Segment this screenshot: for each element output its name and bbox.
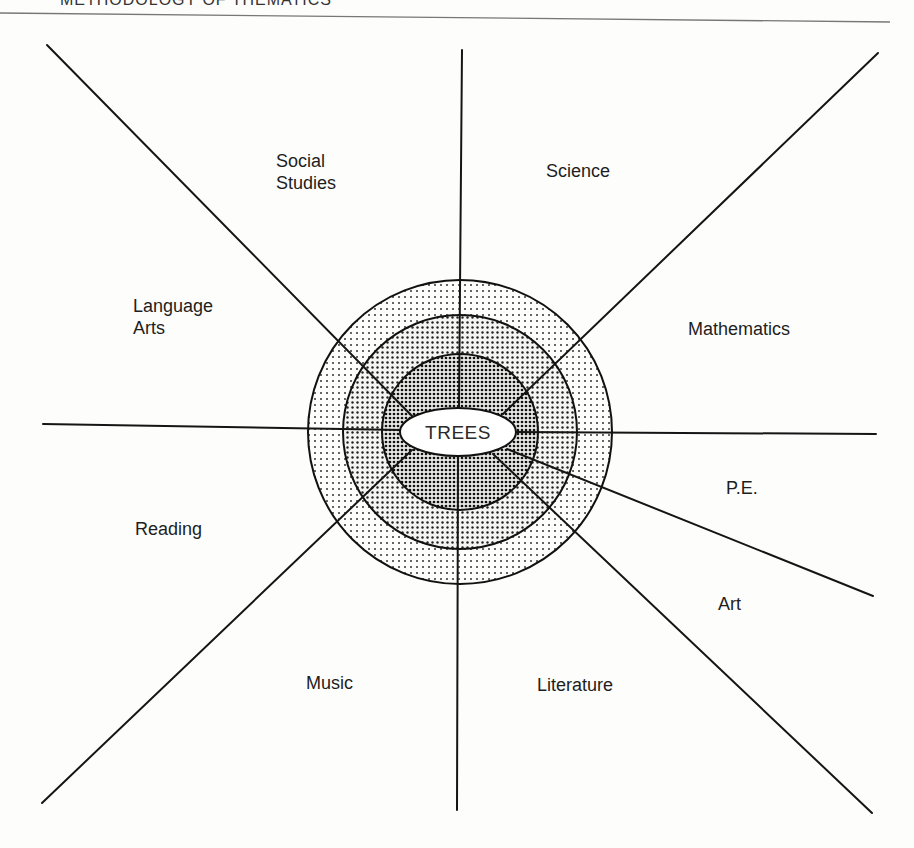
spoke-bottom (457, 456, 458, 810)
label-science: Science (546, 160, 610, 182)
label-language-arts: Language Arts (133, 295, 213, 339)
label-reading: Reading (135, 518, 202, 540)
spoke-top-right (503, 53, 878, 414)
spoke-bottom-left (42, 450, 412, 803)
label-mathematics: Mathematics (688, 318, 790, 340)
page: METHODOLOGY OF THEMATICS (0, 0, 914, 848)
spoke-bottom-right (493, 454, 872, 813)
label-social-studies: Social Studies (276, 150, 336, 194)
spoke-top-left (47, 45, 412, 416)
label-music: Music (306, 672, 353, 694)
label-pe: P.E. (726, 477, 758, 499)
center-topic-label: TREES (425, 422, 491, 444)
header-rule (0, 13, 890, 22)
label-art: Art (718, 593, 741, 615)
label-literature: Literature (537, 674, 613, 696)
